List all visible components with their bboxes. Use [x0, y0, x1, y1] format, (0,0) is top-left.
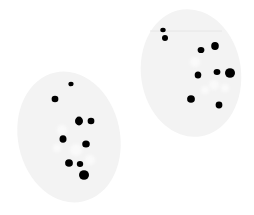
cell-highlight — [57, 125, 67, 135]
dark-spot — [162, 35, 168, 41]
dark-spot — [60, 135, 67, 143]
cell-highlight — [53, 144, 61, 152]
dark-spot — [195, 71, 202, 78]
cell-highlight — [70, 144, 82, 156]
dark-spot — [52, 96, 59, 102]
dark-spot — [88, 118, 95, 124]
dark-spot — [77, 161, 83, 167]
image-canvas: Two egg-shaped cells with dark spots — [0, 0, 254, 215]
dark-spot — [65, 159, 73, 167]
dark-spot — [75, 117, 83, 126]
cell-highlight — [209, 80, 219, 90]
cells-illustration — [0, 0, 254, 215]
dark-spot — [68, 82, 73, 87]
dark-spot — [211, 42, 219, 50]
cell-highlight — [221, 84, 229, 92]
dark-spot — [160, 28, 165, 32]
dark-spot — [79, 170, 89, 180]
dark-spot — [214, 69, 221, 75]
dark-spot — [225, 68, 235, 78]
dark-spot — [198, 47, 205, 53]
cell-highlight — [190, 57, 200, 67]
dark-spot — [187, 95, 195, 103]
dark-spot — [216, 102, 223, 109]
dark-spot — [82, 140, 90, 147]
cell-highlight — [85, 155, 95, 165]
cell-highlight — [201, 86, 209, 94]
